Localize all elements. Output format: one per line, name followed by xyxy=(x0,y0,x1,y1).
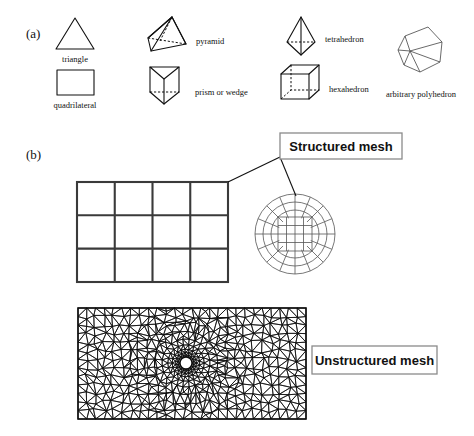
structured-circle-mesh xyxy=(255,194,335,274)
callout-unstructured-mesh[interactable]: Unstructured mesh xyxy=(312,346,437,374)
tetrahedron-label: tetrahedron xyxy=(325,34,364,44)
prism-label: prism or wedge xyxy=(195,87,248,97)
hexahedron-label: hexahedron xyxy=(329,84,369,94)
unstructured-mesh-hole xyxy=(180,357,192,369)
polyhedron-label: arbitrary polyhedron xyxy=(386,89,457,99)
unstructured-mesh xyxy=(78,308,306,419)
triangle-label: triangle xyxy=(62,54,88,64)
panel-a-label: (a) xyxy=(26,26,40,41)
unstructured-mesh-label: Unstructured mesh xyxy=(315,353,434,368)
panel-b-label: (b) xyxy=(26,147,41,162)
quadrilateral-label: quadrilateral xyxy=(54,100,98,110)
structured-mesh-label: Structured mesh xyxy=(289,139,392,154)
figure-mesh-element-types: (a) triangle quadrilateral pyramid xyxy=(0,0,474,436)
pyramid-label: pyramid xyxy=(196,36,225,46)
